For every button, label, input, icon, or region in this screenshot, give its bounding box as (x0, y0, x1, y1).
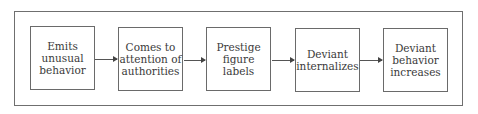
arrow-icon (95, 59, 117, 60)
node-label: Deviant behavior increases (390, 42, 441, 78)
node-deviant-behavior-increases: Deviant behavior increases (383, 28, 448, 92)
arrow-icon (272, 60, 294, 61)
arrow-icon (184, 60, 205, 61)
arrow-icon (360, 60, 382, 61)
node-label: Comes to attention of authorities (120, 41, 182, 77)
node-comes-to-attention: Comes to attention of authorities (118, 27, 183, 91)
node-label: Prestige figure labels (216, 41, 260, 77)
node-label: Deviant internalizes (296, 48, 358, 72)
node-emits-unusual-behavior: Emits unusual behavior (30, 26, 95, 90)
node-prestige-figure-labels: Prestige figure labels (206, 27, 271, 91)
node-deviant-internalizes: Deviant internalizes (295, 28, 360, 92)
node-label: Emits unusual behavior (39, 40, 86, 76)
